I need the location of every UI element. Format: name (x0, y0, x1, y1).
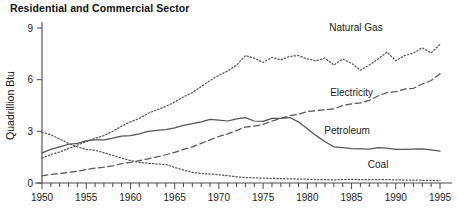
x-tick-label: 1995 (429, 192, 452, 203)
x-tick-label: 1985 (340, 192, 363, 203)
x-tick-label: 1955 (75, 192, 98, 203)
x-tick-label: 1965 (164, 192, 187, 203)
x-tick-label: 1990 (385, 192, 408, 203)
series-line-natural-gas (42, 44, 440, 158)
y-tick-label: 0 (27, 178, 33, 189)
x-tick-label: 1975 (252, 192, 275, 203)
series-label-natural-gas: Natural Gas (329, 22, 382, 33)
x-axis: 1950195519601965197019751980198519901995 (31, 183, 452, 203)
chart-figure: Residential and Commercial Sector 0369 1… (0, 0, 458, 221)
x-tick-label: 1980 (296, 192, 319, 203)
y-axis-title: Quadrillion Btu (4, 71, 16, 140)
y-tick-label: 3 (27, 126, 33, 137)
chart-plot-area: 0369 19501955196019651970197519801985199… (0, 0, 458, 221)
x-tick-label: 1970 (208, 192, 231, 203)
y-axis: 0369 (27, 22, 42, 189)
series-label-coal: Coal (368, 159, 389, 170)
y-axis-title-group: Quadrillion Btu (4, 71, 16, 140)
series-line-petroleum (42, 118, 440, 153)
series-label-electricity: Electricity (330, 87, 373, 98)
x-tick-label: 1950 (31, 192, 54, 203)
x-tick-label: 1960 (119, 192, 142, 203)
y-tick-label: 6 (27, 74, 33, 85)
series-label-petroleum: Petroleum (324, 125, 370, 136)
y-tick-label: 9 (27, 23, 33, 34)
